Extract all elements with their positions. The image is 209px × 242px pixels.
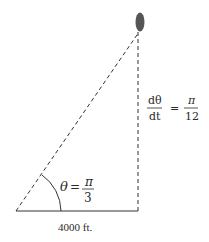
triangle-diagram: θ = π 3 dθ dt = π 12 4000 ft. — [0, 0, 209, 242]
rate-lhs-denominator: dt — [149, 110, 161, 123]
base-length-label: 4000 ft. — [58, 221, 92, 233]
rate-rhs-denominator: 12 — [185, 110, 199, 123]
rate-equals: = — [170, 102, 179, 115]
angle-equals: = — [70, 180, 80, 194]
rate-rhs-numerator: π — [187, 94, 196, 107]
theta-symbol: θ — [60, 179, 68, 194]
rate-lhs-numerator: dθ — [148, 94, 162, 107]
angle-numerator: π — [84, 175, 94, 189]
angle-arc — [42, 175, 61, 211]
angle-denominator: 3 — [84, 191, 92, 205]
balloon-ellipse — [136, 13, 145, 32]
